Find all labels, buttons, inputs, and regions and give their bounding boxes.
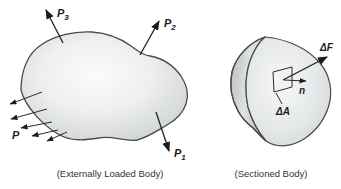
loaded-body-shape (21, 32, 187, 141)
externally-loaded-body: P3 P2 P1 P (Externally Loaded Body) (10, 7, 187, 179)
normal-vector-label: n (299, 85, 305, 96)
force-p2-arrow (140, 21, 159, 55)
mechanics-figure: P3 P2 P1 P (Externally Loaded Body) ΔF (0, 0, 341, 189)
force-p1-label: P1 (174, 147, 186, 162)
delta-a-square (273, 67, 292, 92)
right-caption: (Sectioned Body) (235, 168, 308, 179)
delta-f-label: ΔF (319, 42, 334, 53)
force-p2-label: P2 (164, 17, 176, 32)
force-p3-label: P3 (57, 7, 69, 22)
figure-canvas: P3 P2 P1 P (Externally Loaded Body) ΔF (0, 0, 341, 189)
distributed-arrow-4 (32, 130, 58, 136)
left-caption: (Externally Loaded Body) (57, 168, 164, 179)
delta-a-label: ΔA (275, 106, 290, 117)
sectioned-body: ΔF n ΔA (Sectioned Body) (231, 37, 334, 179)
sectioned-body-face (246, 37, 331, 146)
distributed-load-label: P (12, 129, 20, 141)
